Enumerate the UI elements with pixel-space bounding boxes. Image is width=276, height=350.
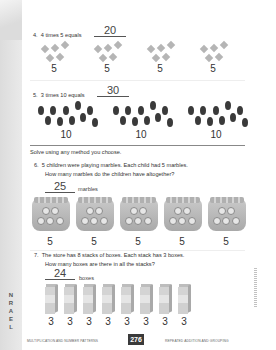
group-count: 3 xyxy=(164,316,204,327)
box-stack-icon xyxy=(159,284,172,314)
group-count: 5 xyxy=(87,63,127,74)
box-stack-icon xyxy=(102,284,115,314)
dot-icon xyxy=(75,101,81,110)
group-count: 5 xyxy=(118,236,158,247)
problem-6-line1: 6. 5 children were playing marbles. Each… xyxy=(34,162,188,168)
marble-icon xyxy=(51,207,59,215)
problem-4-answer[interactable]: 20 xyxy=(94,25,126,37)
diamond-icon xyxy=(104,44,112,52)
copyright-notice xyxy=(254,268,257,308)
marble-icon xyxy=(213,217,221,225)
group-count: 5 xyxy=(34,63,74,74)
dot-icon xyxy=(69,116,75,125)
marble-icon xyxy=(100,217,108,225)
problem-7-line1: 7. The store has 8 stacks of boxes. Each… xyxy=(34,252,184,258)
problem-number: 7. xyxy=(34,252,39,258)
box-front xyxy=(121,287,131,314)
diamond-icon xyxy=(94,45,102,53)
learn-letter: E xyxy=(6,315,16,323)
marble-bag-icon xyxy=(208,199,246,231)
marble-icon xyxy=(169,217,177,225)
box-side xyxy=(74,284,77,313)
problem-6-line2: How many marbles do the children have al… xyxy=(45,171,174,177)
box-stack-icon xyxy=(83,284,96,314)
problem-5-answer[interactable]: 30 xyxy=(97,85,129,97)
problem-7-answer[interactable]: 24 xyxy=(45,268,75,280)
diamond-icon xyxy=(205,54,213,62)
dot-icon xyxy=(150,101,156,110)
dot-icon xyxy=(87,106,93,115)
footer-chapter: MULTIPLICATION AND NUMBER PATTERNS xyxy=(27,339,98,343)
box-front xyxy=(102,287,112,314)
marble-icon xyxy=(174,207,182,215)
marble-icon xyxy=(178,217,186,225)
problem-number: 6. xyxy=(34,162,39,168)
marble-icon xyxy=(183,207,191,215)
marble-icon xyxy=(139,207,147,215)
diamond-icon xyxy=(114,41,122,49)
group-count: 5 xyxy=(193,63,233,74)
dot-icon xyxy=(225,101,231,110)
learn-letter: N xyxy=(6,291,16,299)
group-count: 5 xyxy=(162,236,202,247)
marble-icon xyxy=(81,217,89,225)
page-fold xyxy=(0,0,22,40)
box-front xyxy=(64,287,74,314)
diamond-icon xyxy=(109,53,117,61)
marble-icon xyxy=(56,217,64,225)
marble-icon xyxy=(144,217,152,225)
dot-icon xyxy=(200,106,206,115)
marble-bag-icon xyxy=(120,199,158,231)
diamond-icon xyxy=(157,44,165,52)
box-stack-icon xyxy=(140,284,153,314)
dot-icon xyxy=(92,118,98,127)
diamond-icon xyxy=(162,53,170,61)
box-side xyxy=(169,284,172,313)
dot-icon xyxy=(80,113,86,122)
marble-bag-icon xyxy=(32,199,70,231)
diamond-icon xyxy=(200,45,208,53)
dot-icon xyxy=(45,116,51,125)
marble-bag-icon xyxy=(76,199,114,231)
section-divider xyxy=(30,145,245,146)
dot-icon xyxy=(230,113,236,122)
marble-icon xyxy=(188,217,196,225)
box-stack-icon xyxy=(178,284,191,314)
box-side xyxy=(131,284,134,313)
box-front xyxy=(83,287,93,314)
dot-icon xyxy=(195,116,201,125)
box-front xyxy=(159,287,169,314)
dot-icon xyxy=(63,106,69,115)
dot-icon xyxy=(138,106,144,115)
diamond-icon xyxy=(61,41,69,49)
bag-rim xyxy=(166,197,200,203)
footer-lesson: REPEATED ADDITION AND GROUPING xyxy=(165,339,229,343)
learn-label: N R A E L xyxy=(6,291,16,331)
problem-6-unit: marbles xyxy=(78,186,98,192)
group-count: 10 xyxy=(46,129,86,140)
diamond-icon xyxy=(147,45,155,53)
marble-icon xyxy=(130,207,138,215)
bag-rim xyxy=(34,197,68,203)
box-front xyxy=(140,287,150,314)
dot-icon xyxy=(38,106,44,115)
diamond-icon xyxy=(51,44,59,52)
marble-icon xyxy=(37,217,45,225)
page-number: 276 xyxy=(128,334,144,345)
group-count: 10 xyxy=(196,129,236,140)
box-side xyxy=(55,284,58,313)
diamond-icon xyxy=(210,44,218,52)
dot-icon xyxy=(162,106,168,115)
problem-6-answer[interactable]: 25 xyxy=(45,181,75,193)
diamond-icon xyxy=(167,41,175,49)
diamond-icon xyxy=(152,54,160,62)
box-stack-icon xyxy=(121,284,134,314)
marble-icon xyxy=(218,207,226,215)
diamond-icon xyxy=(99,54,107,62)
marble-icon xyxy=(86,207,94,215)
problem-5-question: 5. 3 times 10 equals xyxy=(33,92,85,98)
marble-icon xyxy=(134,217,142,225)
learn-letter: R xyxy=(6,299,16,307)
box-side xyxy=(150,284,153,313)
diamond-icon xyxy=(41,45,49,53)
